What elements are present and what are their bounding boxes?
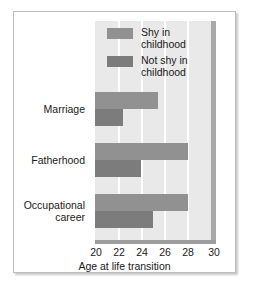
category-label-occupational-career: Occupational career (0, 199, 85, 223)
legend-item-not-shy: Not shy in childhood (107, 55, 212, 78)
legend-label-shy: Shy in childhood (141, 27, 212, 50)
bar-marriage-not-shy (95, 109, 123, 126)
category-label-fatherhood: Fatherhood (0, 154, 85, 166)
category-label-occupational-career-line1: Occupational (0, 199, 85, 211)
legend-swatch-not-shy-icon (107, 56, 133, 67)
legend-swatch-shy-icon (107, 28, 133, 39)
x-tick-28: 28 (176, 246, 200, 258)
x-axis-title: Age at life transition (14, 260, 235, 272)
chart-legend: Shy in childhood Not shy in childhood (107, 27, 212, 83)
category-label-occupational-career-line2: career (0, 211, 85, 223)
x-tick-30: 30 (202, 246, 226, 258)
legend-label-not-shy-line2: childhood (141, 67, 188, 79)
x-tick-26: 26 (153, 246, 177, 258)
legend-label-not-shy: Not shy in childhood (141, 55, 188, 78)
bar-marriage-shy (95, 92, 158, 109)
plot-floor-strip (95, 240, 216, 244)
bar-chart: Marriage Fatherhood Occupational career … (14, 12, 235, 272)
category-label-fatherhood-line1: Fatherhood (0, 154, 85, 166)
bar-fatherhood-not-shy (95, 160, 141, 177)
legend-label-shy-line1: Shy in childhood (141, 27, 212, 50)
x-tick-24: 24 (130, 246, 154, 258)
legend-label-not-shy-line1: Not shy in (141, 55, 188, 67)
chart-figure-card: Marriage Fatherhood Occupational career … (13, 11, 236, 273)
category-label-marriage-line1: Marriage (0, 103, 85, 115)
x-tick-22: 22 (107, 246, 131, 258)
x-tick-20: 20 (84, 246, 108, 258)
legend-item-shy: Shy in childhood (107, 27, 212, 50)
category-label-marriage: Marriage (0, 103, 85, 115)
bar-fatherhood-shy (95, 143, 188, 160)
bar-occupational-career-shy (95, 194, 188, 211)
bar-occupational-career-not-shy (95, 211, 153, 228)
